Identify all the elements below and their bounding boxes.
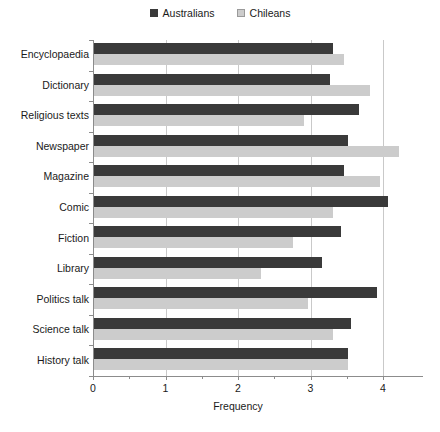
plot-area: 01234: [0, 0, 440, 432]
y-tick-1: [89, 71, 93, 72]
x-tick-2: [238, 376, 239, 380]
x-tick-label-4: 4: [368, 382, 398, 394]
y-tick-6: [89, 223, 93, 224]
gridline-x-4: [383, 40, 384, 376]
y-tick-10: [89, 345, 93, 346]
y-tick-2: [89, 101, 93, 102]
x-tick-3: [311, 376, 312, 380]
x-tick-label-2: 2: [223, 382, 253, 394]
y-tick-7: [89, 254, 93, 255]
bar-chart: Australians Chileans EncyclopaediaDictio…: [0, 0, 440, 432]
bar-australians-religious-texts: [94, 104, 359, 115]
x-minor-tick-1.5: [202, 376, 203, 379]
bar-australians-politics-talk: [94, 287, 377, 298]
x-tick-label-3: 3: [296, 382, 326, 394]
bar-chileans-encyclopaedia: [94, 54, 344, 65]
bar-chileans-dictionary: [94, 85, 370, 96]
bar-australians-fiction: [94, 226, 341, 237]
bar-chileans-fiction: [94, 237, 293, 248]
x-minor-tick-0.5: [129, 376, 130, 379]
bar-chileans-science-talk: [94, 329, 333, 340]
y-tick-end: [89, 376, 93, 377]
bar-australians-magazine: [94, 165, 344, 176]
x-tick-1: [166, 376, 167, 380]
bar-chileans-library: [94, 268, 261, 279]
x-tick-4: [383, 376, 384, 380]
bar-australians-comic: [94, 196, 388, 207]
x-axis-title: Frequency: [93, 400, 383, 412]
bar-chileans-politics-talk: [94, 298, 308, 309]
bar-chileans-newspaper: [94, 146, 399, 157]
bar-australians-newspaper: [94, 135, 348, 146]
bar-chileans-comic: [94, 207, 333, 218]
bar-australians-science-talk: [94, 318, 351, 329]
x-tick-0: [93, 376, 94, 380]
bar-australians-history-talk: [94, 348, 348, 359]
x-minor-tick-3.5: [347, 376, 348, 379]
bar-chileans-religious-texts: [94, 115, 304, 126]
y-tick-9: [89, 315, 93, 316]
bar-australians-library: [94, 257, 322, 268]
y-tick-4: [89, 162, 93, 163]
x-minor-tick-2.5: [274, 376, 275, 379]
bar-chileans-history-talk: [94, 359, 348, 370]
y-tick-8: [89, 284, 93, 285]
bar-chileans-magazine: [94, 176, 380, 187]
x-axis-line: [93, 376, 423, 377]
bar-australians-dictionary: [94, 74, 330, 85]
x-tick-label-1: 1: [151, 382, 181, 394]
bar-australians-encyclopaedia: [94, 43, 333, 54]
x-tick-label-0: 0: [78, 382, 108, 394]
y-tick-0: [89, 40, 93, 41]
y-tick-3: [89, 132, 93, 133]
y-tick-5: [89, 193, 93, 194]
